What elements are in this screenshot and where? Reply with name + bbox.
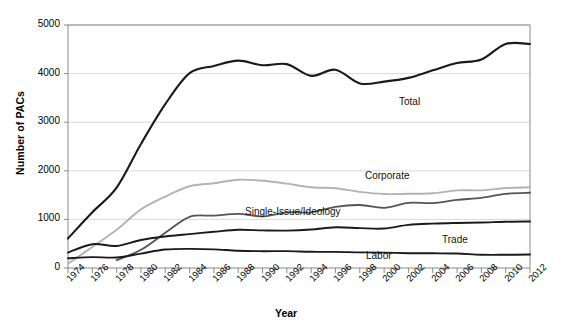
series-label-trade: Trade	[442, 234, 468, 245]
pac-count-line-chart: Number of PACs Year 01000200030004000500…	[0, 0, 564, 329]
series-label-total: Total	[399, 96, 420, 107]
y-tick-label: 0	[18, 261, 60, 272]
series-label-single-issue-ideology: Single-Issue/Ideology	[245, 206, 341, 217]
y-tick-label: 4000	[18, 67, 60, 78]
y-tick-label: 1000	[18, 212, 60, 223]
series-label-labor: Labor	[366, 250, 392, 261]
y-tick-label: 2000	[18, 164, 60, 175]
y-tick-label: 5000	[18, 18, 60, 29]
y-tick-label: 3000	[18, 115, 60, 126]
y-axis-title: Number of PACs	[14, 91, 26, 175]
series-label-corporate: Corporate	[365, 170, 409, 181]
chart-plot-area	[0, 0, 564, 329]
x-axis-title: Year	[275, 307, 297, 319]
